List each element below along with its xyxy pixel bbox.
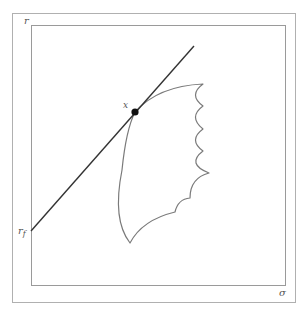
diagram-canvas: r σ rf x bbox=[0, 0, 304, 315]
efficient-frontier-region bbox=[118, 84, 209, 243]
tangency-point bbox=[131, 108, 138, 115]
outer-frame bbox=[13, 14, 296, 303]
intercept-label-sub: f bbox=[22, 229, 28, 238]
tangency-point-label: x bbox=[123, 100, 128, 110]
capital-market-line bbox=[31, 46, 194, 231]
axis-label-r: r bbox=[24, 15, 30, 26]
axis-label-sigma: σ bbox=[279, 287, 287, 298]
inner-plot-frame bbox=[32, 26, 286, 286]
intercept-label-rf: rf bbox=[18, 225, 28, 238]
